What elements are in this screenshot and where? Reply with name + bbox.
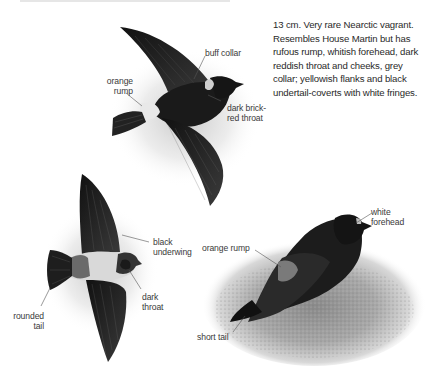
label-black-underwing-2: underwing [153, 247, 192, 257]
label-orange-rump: orange rump [202, 243, 250, 253]
label-rounded-tail-1: rounded [8, 311, 44, 321]
label-dark-throat-1: dark [142, 292, 158, 302]
label-dark-brick-2: red throat [227, 113, 263, 123]
figure-perched [202, 213, 425, 366]
cropped-heading-remnant [20, 0, 230, 2]
label-rounded-tail-2: tail [8, 321, 44, 331]
label-dark-throat-2: throat [142, 302, 163, 312]
label-black-underwing-1: black [153, 237, 173, 247]
figure-flight-underside [41, 174, 158, 362]
label-orange-rump-1: orange [100, 76, 133, 86]
label-white-forehead-1: white [371, 207, 391, 217]
label-short-tail: short tail [197, 332, 228, 342]
label-dark-brick-1: dark brick- [227, 103, 266, 113]
label-orange-rump-2: rump [100, 86, 133, 96]
label-buff-collar: buff collar [205, 48, 241, 58]
label-white-forehead-2: forehead [371, 217, 404, 227]
